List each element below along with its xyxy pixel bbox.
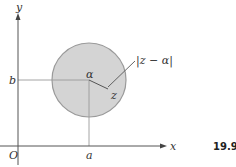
complex-disk-diagram: y x O a b α z |z − α| 19.9 xyxy=(0,0,236,167)
origin-label: O xyxy=(9,149,18,162)
x-axis-arrow-icon xyxy=(160,144,167,149)
y-tick-label-b: b xyxy=(9,74,16,87)
x-axis-label: x xyxy=(170,140,177,153)
y-axis-label: y xyxy=(15,1,23,14)
point-label-z: z xyxy=(110,89,117,102)
figure-number: 19.9 xyxy=(213,141,236,152)
radius-label: |z − α| xyxy=(136,54,173,68)
x-tick-label-a: a xyxy=(86,149,93,162)
y-axis-arrow-icon xyxy=(16,13,21,20)
center-label-alpha: α xyxy=(86,68,94,81)
